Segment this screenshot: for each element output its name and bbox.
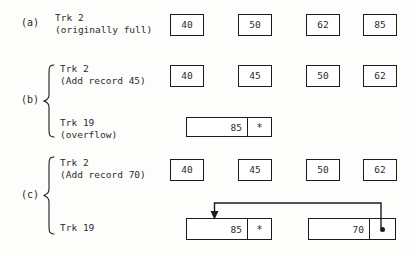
row-label-a-trk2-line1: Trk 2 bbox=[55, 12, 84, 23]
record-box: 62 bbox=[306, 14, 340, 36]
overflow-record-value: 85 bbox=[187, 118, 247, 136]
overflow-chaining-diagram: (a) Trk 2 (originally full) 40 50 62 85 … bbox=[0, 0, 414, 257]
record-box: 85 bbox=[363, 14, 397, 36]
record-box: 40 bbox=[170, 159, 204, 181]
overflow-record-link-pointer bbox=[369, 219, 395, 239]
record-box: 45 bbox=[238, 65, 272, 87]
section-letter-b: (b) bbox=[21, 94, 39, 105]
overflow-record: 85 * bbox=[186, 117, 272, 137]
row-label-c-trk19-line1: Trk 19 bbox=[60, 222, 94, 233]
row-label-c-trk2-line2: (Add record 70) bbox=[60, 169, 146, 180]
overflow-record-value: 85 bbox=[187, 219, 247, 239]
row-label-b-trk2-line2: (Add record 45) bbox=[60, 75, 146, 86]
record-box: 62 bbox=[363, 159, 397, 181]
record-box: 45 bbox=[238, 159, 272, 181]
record-box: 50 bbox=[238, 14, 272, 36]
record-box: 62 bbox=[363, 65, 397, 87]
row-label-b-trk19-line2: (overflow) bbox=[60, 129, 117, 140]
row-label-b-trk2-line1: Trk 2 bbox=[60, 63, 89, 74]
overflow-record: 70 bbox=[308, 218, 396, 240]
overflow-record-link: * bbox=[247, 219, 271, 239]
section-brace-b bbox=[42, 64, 56, 138]
record-box: 50 bbox=[306, 159, 340, 181]
section-letter-c: (c) bbox=[21, 189, 39, 200]
row-label-c-trk2-line1: Trk 2 bbox=[60, 157, 89, 168]
row-label-a-trk2-line2: (originally full) bbox=[55, 24, 152, 35]
section-brace-c bbox=[42, 156, 56, 235]
row-label-b-trk19-line1: Trk 19 bbox=[60, 117, 94, 128]
pointer-dot-icon bbox=[380, 227, 385, 232]
record-box: 50 bbox=[306, 65, 340, 87]
record-box: 40 bbox=[170, 14, 204, 36]
overflow-record-link: * bbox=[247, 118, 271, 136]
overflow-record: 85 * bbox=[186, 218, 272, 240]
section-letter-a: (a) bbox=[21, 17, 39, 28]
overflow-record-value: 70 bbox=[309, 219, 369, 239]
record-box: 40 bbox=[170, 65, 204, 87]
